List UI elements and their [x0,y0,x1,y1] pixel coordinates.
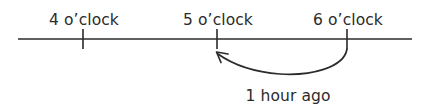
arrow-arc-path [218,49,347,74]
tick-group-4-oclock: 4 o’clock [49,11,119,49]
number-line-canvas: 4 o’clock 5 o’clock 6 o’clock 1 hour ago [0,0,428,109]
tick-label-4-oclock: 4 o’clock [49,11,119,29]
tick-label-5-oclock: 5 o’clock [183,11,253,29]
tick-label-6-oclock: 6 o’clock [313,11,383,29]
number-line-figure: 4 o’clock 5 o’clock 6 o’clock 1 hour ago [0,0,428,109]
tick-group-6-oclock: 6 o’clock [313,11,383,49]
backward-arrow-icon [217,49,348,74]
tick-group-5-oclock: 5 o’clock [183,11,253,49]
annotation-label-1-hour-ago: 1 hour ago [245,87,330,105]
